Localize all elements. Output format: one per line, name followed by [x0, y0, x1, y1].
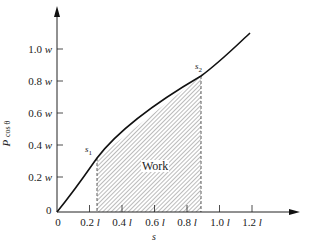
x-axis-label: s — [152, 232, 156, 242]
y-tick-0.6: 0.6 w — [4, 108, 52, 119]
y-tick-0.4: 0.4 w — [4, 140, 52, 151]
y-axis-arrow — [54, 6, 60, 17]
y-tick-1.0: 1.0 w — [4, 44, 52, 55]
s2-label: s2 — [195, 62, 202, 74]
x-axis-arrow — [289, 209, 300, 215]
work-region — [97, 76, 201, 212]
y-tick-0: 0 — [46, 205, 52, 216]
y-tick-0.2: 0.2 w — [4, 172, 52, 183]
s1-label: s1 — [85, 145, 92, 157]
y-tick-0.8: 0.8 w — [4, 76, 52, 87]
x-tick-1.2: 1.2 l — [232, 217, 272, 228]
work-label: Work — [141, 160, 169, 172]
